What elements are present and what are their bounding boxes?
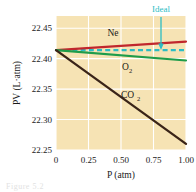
figure-caption-ghost: Figure 5.2	[6, 182, 44, 191]
ideal-annotation-label: Ideal	[152, 4, 170, 14]
series-label-co2-subscript: 2	[137, 95, 140, 102]
x-axis-title: P (atm)	[107, 170, 135, 181]
xtick-label-0: 0	[54, 155, 59, 165]
series-label-ne: Ne	[107, 28, 118, 38]
y-axis-title: PV (L·atm)	[12, 61, 23, 105]
chart-svg: Ne O 2 CO 2 Ideal 22.45 22.40 22.35 22.3…	[0, 0, 196, 192]
chart-figure: Ne O 2 CO 2 Ideal 22.45 22.40 22.35 22.3…	[0, 0, 196, 192]
xtick-label-0-50: 0.50	[113, 155, 129, 165]
series-label-co2-text: CO	[121, 90, 134, 100]
ytick-label-22-30: 22.30	[32, 115, 53, 125]
xtick-label-1-00: 1.00	[178, 155, 194, 165]
ytick-label-22-25: 22.25	[32, 145, 53, 155]
xtick-label-0-75: 0.75	[146, 155, 162, 165]
ytick-label-22-40: 22.40	[32, 54, 53, 64]
series-label-o2-subscript: 2	[129, 67, 132, 74]
xtick-label-0-25: 0.25	[81, 155, 97, 165]
series-label-o2-text: O	[122, 62, 129, 72]
ytick-label-22-45: 22.45	[32, 23, 53, 33]
ytick-label-22-35: 22.35	[32, 84, 53, 94]
